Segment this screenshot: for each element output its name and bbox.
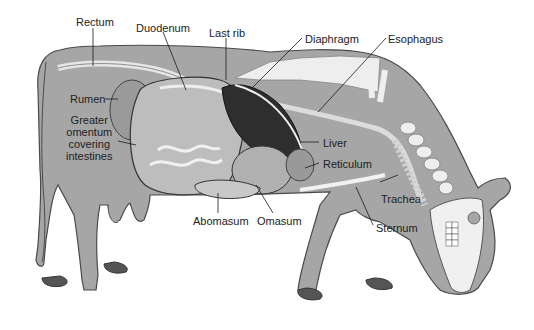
teeth (446, 222, 458, 246)
cow-anatomy-diagram (0, 0, 534, 330)
label-sternum: Sternum (376, 222, 418, 234)
label-liver: Liver (323, 137, 347, 149)
label-duodenum: Duodenum (136, 22, 190, 34)
label-omasum: Omasum (257, 215, 302, 227)
label-abomasum: Abomasum (193, 215, 249, 227)
label-greater-omentum-line-1: Greater (66, 114, 112, 126)
label-rumen: Rumen (70, 93, 105, 105)
eye-socket (468, 212, 480, 224)
reticulum (286, 149, 314, 181)
label-greater-omentum-line-3: covering (66, 138, 112, 150)
label-rectum: Rectum (76, 16, 114, 28)
label-last-rib: Last rib (209, 27, 245, 39)
label-diaphragm: Diaphragm (305, 33, 359, 45)
label-greater-omentum: Greater omentum covering intestines (66, 114, 112, 162)
label-esophagus: Esophagus (388, 33, 443, 45)
label-greater-omentum-line-4: intestines (66, 150, 112, 162)
label-reticulum: Reticulum (323, 158, 372, 170)
label-greater-omentum-line-2: omentum (66, 126, 112, 138)
label-trachea: Trachea (381, 193, 421, 205)
